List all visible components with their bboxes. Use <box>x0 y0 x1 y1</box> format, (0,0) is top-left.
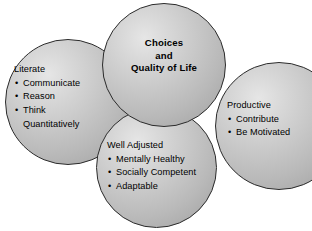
list-item-label: Reason <box>23 91 55 101</box>
center-line-1: Choices <box>120 37 208 50</box>
label-group-literate: Literate • Communicate • Reason • Think … <box>14 64 80 130</box>
venn-diagram: Choices and Quality of Life Literate • C… <box>0 0 312 231</box>
list-item: • Adaptable <box>107 181 196 192</box>
list-item: • Be Motivated <box>227 127 290 138</box>
list-item: • Communicate <box>14 78 80 89</box>
list-item: • Mentally Healthy <box>107 154 196 165</box>
bullet-list-literate: • Communicate • Reason • Think Quantitat… <box>14 78 80 130</box>
group-title-literate: Literate <box>14 64 80 75</box>
label-group-well-adjusted: Well Adjusted • Mentally Healthy • Socia… <box>107 140 196 192</box>
list-item-label: Be Motivated <box>236 127 290 137</box>
bullet-list-well-adjusted: • Mentally Healthy • Socially Competent … <box>107 154 196 193</box>
list-item-label: Mentally Healthy <box>116 154 185 164</box>
list-item: • Contribute <box>227 114 290 125</box>
list-item: • Reason <box>14 91 80 102</box>
label-group-productive: Productive • Contribute • Be Motivated <box>227 100 290 139</box>
list-item-label-continuation: Quantitatively <box>14 119 80 130</box>
list-item-label: Contribute <box>236 114 279 124</box>
center-label-choices-and-quality-of-life: Choices and Quality of Life <box>120 37 208 75</box>
bullet-icon: • <box>15 105 18 116</box>
bullet-list-productive: • Contribute • Be Motivated <box>227 114 290 139</box>
bullet-icon: • <box>228 114 231 125</box>
center-line-3: Quality of Life <box>120 62 208 75</box>
list-item: • Think Quantitatively <box>14 105 80 130</box>
group-title-well-adjusted: Well Adjusted <box>107 140 196 151</box>
list-item-label: Socially Competent <box>116 167 196 177</box>
bullet-icon: • <box>108 154 111 165</box>
group-title-productive: Productive <box>227 100 290 111</box>
bullet-icon: • <box>108 167 111 178</box>
center-line-2: and <box>120 50 208 63</box>
list-item-label: Communicate <box>23 78 80 88</box>
bullet-icon: • <box>15 78 18 89</box>
list-item-label: Think <box>23 105 46 115</box>
list-item: • Socially Competent <box>107 167 196 178</box>
bullet-icon: • <box>108 181 111 192</box>
bullet-icon: • <box>15 91 18 102</box>
list-item-label: Adaptable <box>116 181 158 191</box>
bullet-icon: • <box>228 127 231 138</box>
